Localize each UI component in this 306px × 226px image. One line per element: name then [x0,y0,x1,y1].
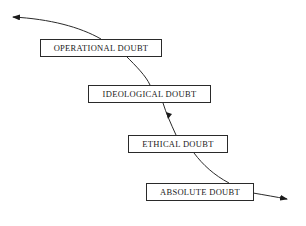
node-label: ETHICAL DOUBT [142,139,213,149]
connector-ethical-absolute [194,153,229,183]
arrow-exit-right [253,193,287,199]
node-absolute-doubt: ABSOLUTE DOUBT [146,183,254,201]
node-ethical-doubt: ETHICAL DOUBT [128,135,228,153]
doubt-diagram: OPERATIONAL DOUBT IDEOLOGICAL DOUBT ETHI… [0,0,306,226]
node-label: ABSOLUTE DOUBT [160,187,240,197]
node-label: IDEOLOGICAL DOUBT [103,89,197,99]
connector-ideological-ethical [163,103,176,135]
node-label: OPERATIONAL DOUBT [54,43,149,53]
arrow-exit-left [13,17,101,39]
connector-operational-ideological [126,56,150,85]
node-operational-doubt: OPERATIONAL DOUBT [40,39,162,57]
node-ideological-doubt: IDEOLOGICAL DOUBT [88,85,211,103]
